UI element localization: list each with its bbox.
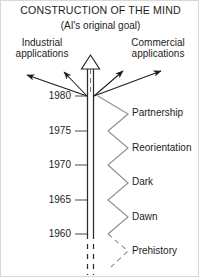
- figure-subtitle: (AI's original goal): [1, 20, 199, 31]
- year-label-1965: 1965: [27, 194, 71, 205]
- year-label-1975: 1975: [27, 125, 71, 136]
- construction-of-the-mind-diagram: CONSTRUCTION OF THE MIND (AI's original …: [0, 0, 199, 277]
- year-label-1960: 1960: [27, 228, 71, 239]
- year-tick-marks: [75, 96, 87, 234]
- right-branch-label: Commercial applications: [119, 37, 197, 59]
- era-zigzag-dashed-tail: [108, 234, 128, 267]
- right-branch-label-line2: applications: [119, 48, 197, 59]
- year-label-1980: 1980: [27, 90, 71, 101]
- main-arrow-shaft-dashed-tail: [88, 234, 94, 275]
- branch-arrow-right-outer: [94, 71, 161, 96]
- stage-label-prehistory: Prehistory: [132, 245, 177, 256]
- left-branch-label-line1: Industrial: [4, 37, 80, 48]
- era-zigzag-line: [98, 96, 128, 267]
- stage-label-partnership: Partnership: [132, 107, 183, 118]
- branch-arrow-right-inner: [94, 71, 123, 96]
- stage-label-dawn: Dawn: [132, 211, 158, 222]
- left-branch-label-line2: applications: [4, 48, 80, 59]
- main-arrow-shaft: [88, 69, 94, 234]
- left-branch-label: Industrial applications: [4, 37, 80, 59]
- year-label-1970: 1970: [27, 159, 71, 170]
- stage-label-dark: Dark: [132, 176, 153, 187]
- stage-label-reorientation: Reorientation: [132, 142, 191, 153]
- main-arrow-head-icon: [82, 55, 100, 69]
- right-branch-label-line1: Commercial: [119, 37, 197, 48]
- figure-title: CONSTRUCTION OF THE MIND: [1, 5, 199, 17]
